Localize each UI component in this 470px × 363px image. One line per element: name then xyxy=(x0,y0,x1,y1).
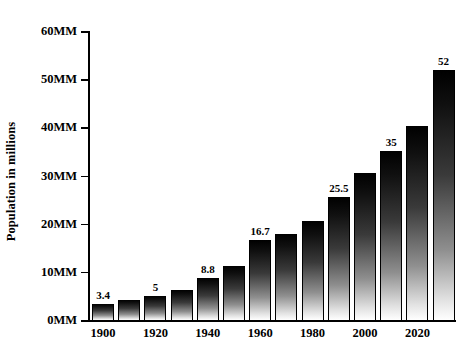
y-tick-label: 50MM xyxy=(41,72,77,87)
y-tick-mark xyxy=(81,79,88,81)
y-tick-mark xyxy=(81,127,88,129)
bar-value-label: 35 xyxy=(386,136,397,148)
y-tick-label: 10MM xyxy=(41,264,77,279)
bar-chart: Population in millions 0MM10MM20MM30MM40… xyxy=(0,0,470,363)
y-tick-label: 0MM xyxy=(47,313,77,328)
y-tick-mark xyxy=(81,320,88,322)
y-tick-mark xyxy=(81,272,88,274)
bar-value-label: 52 xyxy=(438,55,449,67)
bar-value-label: 16.7 xyxy=(251,225,270,237)
y-tick-label: 60MM xyxy=(41,24,77,39)
x-tick-label: 1960 xyxy=(248,326,273,341)
bar xyxy=(433,70,455,320)
bar-value-label: 3.4 xyxy=(96,289,110,301)
bar xyxy=(92,304,114,320)
x-tick-label: 2000 xyxy=(353,326,378,341)
bar xyxy=(380,151,402,320)
y-tick-mark xyxy=(81,224,88,226)
x-tick-label: 1920 xyxy=(143,326,168,341)
y-axis-line xyxy=(88,31,90,320)
x-tick-label: 2020 xyxy=(405,326,430,341)
y-axis-title: Population in millions xyxy=(0,0,22,363)
y-tick-mark xyxy=(81,176,88,178)
bar xyxy=(275,234,297,320)
bar xyxy=(354,173,376,320)
x-tick-label: 1940 xyxy=(195,326,220,341)
bar xyxy=(302,221,324,320)
x-axis-line xyxy=(88,320,456,322)
bar xyxy=(223,266,245,320)
x-tick-label: 1900 xyxy=(91,326,116,341)
bar-value-label: 8.8 xyxy=(201,263,215,275)
bar xyxy=(171,290,193,320)
y-tick-mark xyxy=(81,31,88,33)
bar-value-label: 25.5 xyxy=(329,182,348,194)
bar xyxy=(406,126,428,320)
bar xyxy=(118,300,140,320)
bar-value-label: 5 xyxy=(153,281,159,293)
y-tick-label: 40MM xyxy=(41,120,77,135)
x-tick-label: 1980 xyxy=(300,326,325,341)
bar xyxy=(144,296,166,320)
y-tick-label: 20MM xyxy=(41,216,77,231)
bar xyxy=(328,197,350,320)
plot-area: 0MM10MM20MM30MM40MM50MM60MM 3.458.816.72… xyxy=(88,31,456,320)
bar xyxy=(197,278,219,320)
bar xyxy=(249,240,271,320)
y-tick-label: 30MM xyxy=(41,168,77,183)
